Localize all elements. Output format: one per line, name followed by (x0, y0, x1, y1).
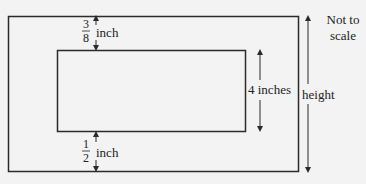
bottom-margin-unit: inch (96, 145, 119, 160)
bottom-margin-denominator: 2 (83, 151, 89, 165)
inner-rectangle (58, 51, 246, 132)
scale-note-line1: Not to (327, 12, 360, 27)
scale-note-line2: scale (330, 28, 356, 43)
frame-diagram: 3 8 inch 1 2 inch 4 inches height Not to… (0, 0, 366, 184)
top-margin-numerator: 3 (83, 17, 89, 31)
inner-height-label: 4 inches (248, 82, 291, 97)
top-margin-denominator: 8 (83, 31, 89, 45)
bottom-margin-numerator: 1 (83, 137, 89, 151)
top-margin-unit: inch (96, 25, 119, 40)
outer-height-label: height (302, 87, 335, 102)
